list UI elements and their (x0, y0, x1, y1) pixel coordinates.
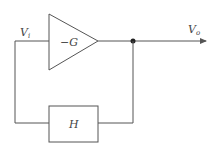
amplifier-block: −G (49, 14, 98, 70)
output-label: Vo (188, 23, 200, 37)
input-label: Vi (20, 26, 30, 40)
feedback-label: H (68, 118, 79, 131)
input-feedback-wire (15, 41, 49, 123)
feedback-wire (98, 41, 133, 123)
amplifier-label: −G (60, 36, 78, 49)
feedback-block: H (49, 106, 98, 142)
block-diagram: −G H Vi Vo (0, 0, 215, 148)
